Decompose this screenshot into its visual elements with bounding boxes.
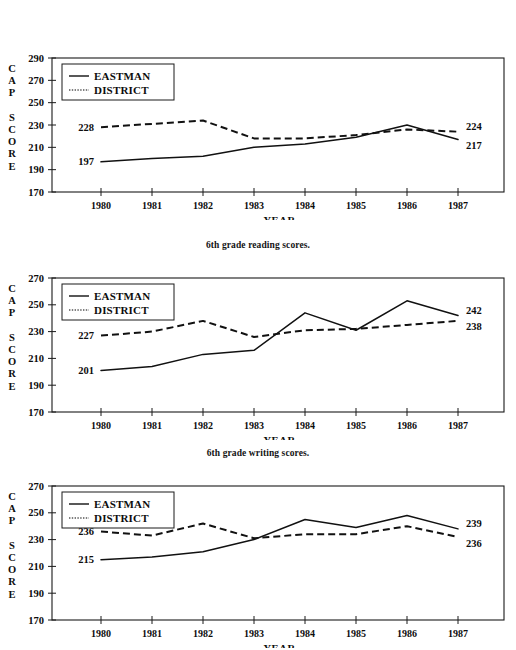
endpoint-label-district-end: 238 bbox=[466, 321, 482, 332]
y-tick-label: 190 bbox=[28, 588, 44, 599]
y-axis-title-letter: E bbox=[8, 589, 15, 600]
legend-label-district: DISTRICT bbox=[94, 512, 149, 524]
x-tick-label-1985: 1985 bbox=[346, 420, 366, 431]
chart-writing: 1701902102302502701980198119821983198419… bbox=[0, 272, 516, 440]
y-axis-title-letter: R bbox=[8, 148, 16, 159]
y-tick-label: 210 bbox=[28, 353, 44, 364]
chart-caption-writing: 6th grade writing scores. bbox=[0, 448, 516, 458]
legend-label-eastman: EASTMAN bbox=[94, 498, 150, 510]
x-tick-label-1986: 1986 bbox=[397, 200, 417, 211]
chart-reading: 1701902102302502702901980198119821983198… bbox=[0, 52, 516, 220]
x-tick-label-1987: 1987 bbox=[448, 628, 468, 639]
legend-label-district: DISTRICT bbox=[94, 304, 149, 316]
y-tick-label: 250 bbox=[28, 299, 44, 310]
chart-block-reading: 1701902102302502702901980198119821983198… bbox=[0, 52, 516, 220]
y-axis-title-letter: C bbox=[8, 552, 16, 563]
x-tick-label-1981: 1981 bbox=[142, 200, 162, 211]
endpoint-label-district-end: 236 bbox=[466, 538, 482, 549]
endpoint-label-eastman-start: 201 bbox=[78, 365, 94, 376]
y-tick-label: 230 bbox=[28, 534, 44, 545]
x-tick-label-1983: 1983 bbox=[244, 628, 264, 639]
y-axis-title-letter: E bbox=[8, 161, 15, 172]
x-tick-label-1986: 1986 bbox=[397, 420, 417, 431]
y-tick-label: 210 bbox=[28, 561, 44, 572]
legend-label-district: DISTRICT bbox=[94, 84, 149, 96]
y-axis-title-letter: C bbox=[8, 283, 16, 294]
x-tick-label-1984: 1984 bbox=[295, 628, 315, 639]
endpoint-label-eastman-end: 217 bbox=[466, 140, 482, 151]
x-tick-label-1986: 1986 bbox=[397, 628, 417, 639]
y-axis-title-letter: P bbox=[9, 307, 16, 318]
y-axis-title-letter: O bbox=[8, 564, 16, 575]
y-tick-label: 270 bbox=[28, 75, 44, 86]
y-axis-title-letter: O bbox=[8, 356, 16, 367]
y-tick-label: 230 bbox=[28, 120, 44, 131]
chart-caption-reading: 6th grade reading scores. bbox=[0, 240, 516, 250]
x-tick-label-1981: 1981 bbox=[142, 628, 162, 639]
x-tick-label-1985: 1985 bbox=[346, 200, 366, 211]
x-tick-label-1983: 1983 bbox=[244, 200, 264, 211]
series-line-district bbox=[101, 121, 458, 139]
y-axis-title-letter: C bbox=[8, 344, 16, 355]
y-axis-title-letter: O bbox=[8, 136, 16, 147]
endpoint-label-eastman-start: 215 bbox=[78, 554, 94, 565]
legend-label-eastman: EASTMAN bbox=[94, 290, 150, 302]
y-tick-label: 190 bbox=[28, 164, 44, 175]
y-axis-title-letter: A bbox=[8, 295, 16, 306]
endpoint-label-eastman-start: 197 bbox=[78, 156, 94, 167]
y-axis-title-letter: R bbox=[8, 368, 16, 379]
x-axis-title: YEAR bbox=[263, 215, 295, 220]
y-axis-title-letter: C bbox=[8, 124, 16, 135]
y-axis-title-letter: C bbox=[8, 491, 16, 502]
y-tick-label: 270 bbox=[28, 481, 44, 492]
endpoint-label-district-start: 228 bbox=[78, 122, 94, 133]
y-axis-title-letter: E bbox=[8, 381, 15, 392]
y-axis-title-letter: P bbox=[9, 87, 16, 98]
x-tick-label-1984: 1984 bbox=[295, 420, 315, 431]
chart-math: 1701902102302502701980198119821983198419… bbox=[0, 480, 516, 648]
x-tick-label-1985: 1985 bbox=[346, 628, 366, 639]
y-axis-title-letter: R bbox=[8, 576, 16, 587]
x-tick-label-1983: 1983 bbox=[244, 420, 264, 431]
endpoint-label-district-start: 227 bbox=[78, 330, 94, 341]
x-axis-title: YEAR bbox=[263, 643, 295, 648]
x-tick-label-1984: 1984 bbox=[295, 200, 315, 211]
y-tick-label: 170 bbox=[28, 407, 44, 418]
chart-block-writing: 1701902102302502701980198119821983198419… bbox=[0, 272, 516, 440]
y-tick-label: 230 bbox=[28, 326, 44, 337]
series-line-district bbox=[101, 321, 458, 337]
figure-page: 1701902102302502702901980198119821983198… bbox=[0, 0, 516, 650]
series-line-eastman bbox=[101, 125, 458, 162]
y-axis-title-letter: P bbox=[9, 515, 16, 526]
y-tick-label: 170 bbox=[28, 615, 44, 626]
x-tick-label-1982: 1982 bbox=[193, 628, 213, 639]
y-axis-title-letter: A bbox=[8, 75, 16, 86]
y-tick-label: 270 bbox=[28, 273, 44, 284]
endpoint-label-district-end: 224 bbox=[466, 121, 483, 132]
y-tick-label: 190 bbox=[28, 380, 44, 391]
x-tick-label-1982: 1982 bbox=[193, 200, 213, 211]
x-tick-label-1987: 1987 bbox=[448, 420, 468, 431]
x-tick-label-1987: 1987 bbox=[448, 200, 468, 211]
chart-block-math: 1701902102302502701980198119821983198419… bbox=[0, 480, 516, 648]
y-tick-label: 250 bbox=[28, 97, 44, 108]
y-axis-title-letter: C bbox=[8, 63, 16, 74]
endpoint-label-eastman-end: 242 bbox=[466, 305, 482, 316]
y-tick-label: 250 bbox=[28, 507, 44, 518]
x-tick-label-1980: 1980 bbox=[91, 628, 111, 639]
x-tick-label-1982: 1982 bbox=[193, 420, 213, 431]
x-tick-label-1981: 1981 bbox=[142, 420, 162, 431]
x-axis-title: YEAR bbox=[263, 435, 295, 440]
y-tick-label: 210 bbox=[28, 142, 44, 153]
x-tick-label-1980: 1980 bbox=[91, 420, 111, 431]
y-axis-title-letter: S bbox=[9, 540, 15, 551]
y-axis-title-letter: A bbox=[8, 503, 16, 514]
y-tick-label: 170 bbox=[28, 187, 44, 198]
endpoint-label-eastman-end: 239 bbox=[466, 518, 482, 529]
y-tick-label: 290 bbox=[28, 53, 44, 64]
legend-label-eastman: EASTMAN bbox=[94, 70, 150, 82]
y-axis-title-letter: S bbox=[9, 332, 15, 343]
y-axis-title-letter: S bbox=[9, 112, 15, 123]
x-tick-label-1980: 1980 bbox=[91, 200, 111, 211]
